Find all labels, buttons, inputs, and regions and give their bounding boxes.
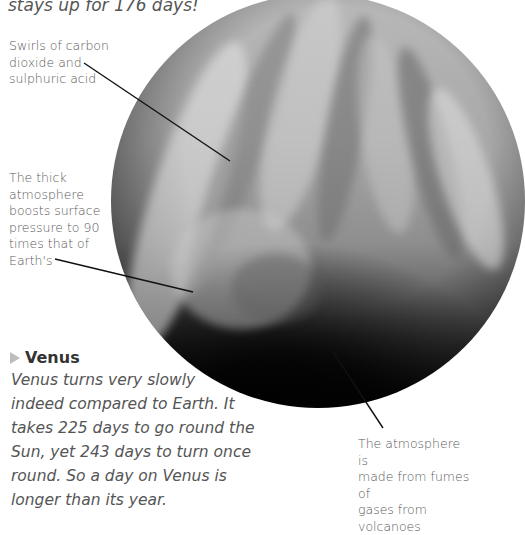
body-line: indeed compared to Earth. It bbox=[11, 392, 281, 416]
body-line: Venus turns very slowly bbox=[11, 368, 281, 392]
annotation-line: boosts surface bbox=[9, 203, 100, 220]
body-line: round. So a day on Venus is bbox=[11, 464, 281, 488]
annotation-line: sulphuric acid bbox=[9, 71, 109, 88]
body-line: Sun, yet 243 days to turn once bbox=[11, 440, 281, 464]
section-heading: Venus bbox=[10, 348, 80, 367]
venus-planet-image bbox=[111, 0, 525, 408]
triangle-right-icon bbox=[10, 352, 20, 364]
annotation-line: The atmosphere is bbox=[358, 436, 473, 469]
annotation-line: pressure to 90 bbox=[9, 220, 100, 237]
annotation-line: Swirls of carbon bbox=[9, 38, 109, 55]
body-line: longer than its year. bbox=[11, 488, 281, 512]
annotation-line: Earth's bbox=[9, 253, 100, 270]
section-body: Venus turns very slowly indeed compared … bbox=[11, 368, 281, 512]
annotation-fumes: The atmosphere is made from fumes of gas… bbox=[358, 436, 473, 535]
annotation-line: The thick bbox=[9, 170, 100, 187]
annotation-line: made from fumes of bbox=[358, 469, 473, 502]
annotation-line: dioxide and bbox=[9, 55, 109, 72]
body-line: takes 225 days to go round the bbox=[11, 416, 281, 440]
annotation-line: atmosphere bbox=[9, 187, 100, 204]
intro-tail-text: stays up for 176 days! bbox=[8, 0, 199, 15]
annotation-line: gases from volcanoes bbox=[358, 502, 473, 535]
section-title: Venus bbox=[25, 348, 80, 367]
annotation-pressure: The thick atmosphere boosts surface pres… bbox=[9, 170, 100, 269]
annotation-swirls: Swirls of carbon dioxide and sulphuric a… bbox=[9, 38, 109, 88]
annotation-line: times that of bbox=[9, 236, 100, 253]
